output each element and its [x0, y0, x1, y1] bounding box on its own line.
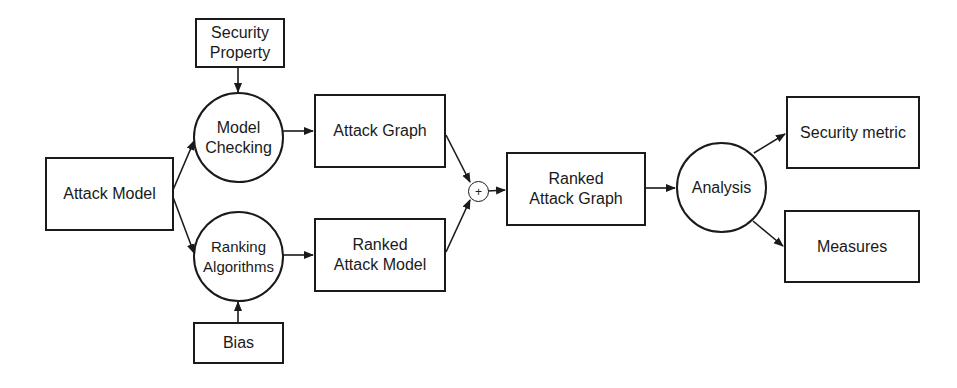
arrow-combine-to-ranked-attack-graph — [488, 190, 505, 191]
security-property-box: Security Property — [195, 18, 285, 68]
ranked-attack-model-box: Ranked Attack Model — [314, 218, 446, 292]
arrow-ranked-attack-model-to-combine — [446, 200, 470, 252]
attack-graph-pipeline-diagram: Security Property Model Checking Attack … — [0, 0, 957, 388]
ranked-attack-graph-box: Ranked Attack Graph — [506, 152, 646, 226]
combine-plus-circle: + — [468, 181, 489, 202]
attack-graph-box: Attack Graph — [314, 94, 446, 168]
security-metric-box: Security metric — [786, 96, 920, 169]
attack-model-box: Attack Model — [45, 157, 174, 231]
arrow-attack-model-to-model-checking — [173, 141, 194, 190]
arrow-attack-graph-to-combine — [446, 135, 470, 182]
model-checking-circle: Model Checking — [193, 92, 284, 183]
ranking-algorithms-circle: Ranking Algorithms — [193, 211, 284, 302]
arrow-analysis-to-security-metric — [754, 134, 785, 153]
arrow-attack-model-to-ranking-algorithms — [173, 197, 194, 253]
arrow-analysis-to-measures — [753, 221, 783, 246]
bias-box: Bias — [193, 322, 284, 364]
analysis-circle: Analysis — [676, 142, 767, 233]
measures-box: Measures — [784, 210, 920, 283]
